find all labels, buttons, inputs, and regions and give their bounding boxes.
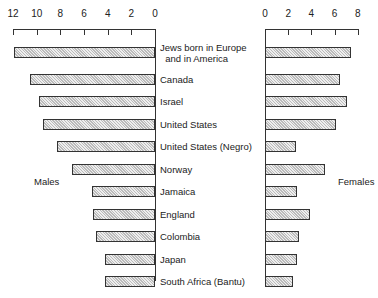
right-vertical-axis [265, 29, 266, 281]
left-tick [155, 29, 156, 35]
left-tick-label: 0 [152, 8, 158, 19]
right-tick-label: 4 [309, 8, 315, 19]
female-bar [265, 119, 336, 130]
left-tick [131, 29, 132, 35]
category-label: Norway [160, 164, 192, 175]
left-tick-label: 12 [7, 8, 18, 19]
male-bar [30, 74, 155, 85]
female-bar [265, 164, 325, 175]
left-tick [108, 29, 109, 35]
left-tick-label: 8 [58, 8, 64, 19]
category-label: Colombia [160, 231, 200, 242]
males-label: Males [34, 176, 59, 187]
male-bar [72, 164, 155, 175]
male-bar [92, 186, 155, 197]
female-bar [265, 186, 297, 197]
category-label: Canada [160, 74, 193, 85]
female-bar [265, 276, 293, 287]
female-bar [265, 74, 340, 85]
left-vertical-axis [155, 29, 156, 281]
male-bar [105, 276, 155, 287]
left-tick-label: 10 [31, 8, 42, 19]
right-tick [311, 29, 312, 35]
category-label: Israel [160, 96, 183, 107]
female-bar [265, 254, 297, 265]
male-bar [39, 96, 155, 107]
category-label: South Africa (Bantu) [160, 276, 245, 287]
left-tick-label: 6 [81, 8, 87, 19]
left-tick [37, 29, 38, 35]
category-label: United States (Negro) [160, 141, 252, 152]
male-bar [105, 254, 155, 265]
female-bar [265, 209, 310, 220]
right-tick-label: 6 [332, 8, 338, 19]
right-tick-label: 0 [262, 8, 268, 19]
female-bar [265, 96, 347, 107]
category-label: Japan [160, 254, 186, 265]
category-label: England [160, 209, 195, 220]
category-label: Jamaica [160, 186, 195, 197]
left-tick-label: 4 [105, 8, 111, 19]
right-tick [335, 29, 336, 35]
right-tick [358, 29, 359, 35]
left-tick-label: 2 [129, 8, 135, 19]
female-bar [265, 231, 299, 242]
male-bar [43, 119, 155, 130]
right-tick-label: 2 [285, 8, 291, 19]
right-tick [288, 29, 289, 35]
male-bar [14, 47, 155, 58]
right-tick [265, 29, 266, 35]
left-tick [84, 29, 85, 35]
right-tick-label: 8 [355, 8, 361, 19]
left-tick [60, 29, 61, 35]
left-tick [13, 29, 14, 35]
male-bar [93, 209, 155, 220]
female-bar [265, 47, 351, 58]
male-bar [57, 141, 155, 152]
male-bar [96, 231, 155, 242]
category-label: United States [160, 119, 217, 130]
female-bar [265, 141, 296, 152]
category-label: Jews born in Europe and in America [160, 42, 247, 64]
females-label: Females [338, 176, 374, 187]
